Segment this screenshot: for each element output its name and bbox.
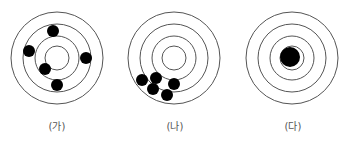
- hit-mark: [80, 52, 92, 64]
- hit-mark: [150, 72, 162, 84]
- target-ring: [162, 46, 186, 70]
- hit-mark: [147, 83, 159, 95]
- hit-mark: [168, 78, 180, 90]
- hit-mark: [136, 74, 148, 86]
- hit-mark: [280, 47, 300, 67]
- hit-mark: [51, 79, 63, 91]
- hit-mark: [161, 89, 173, 101]
- hit-mark: [47, 25, 59, 37]
- target-ring: [128, 12, 220, 104]
- hit-mark: [23, 45, 35, 57]
- target-ga: [11, 12, 103, 104]
- target-na: [128, 12, 220, 104]
- target-da: [246, 12, 338, 104]
- hit-mark: [39, 63, 51, 75]
- target-label-na: (나): [155, 118, 195, 133]
- target-label-ga: (가): [37, 118, 77, 133]
- target-label-da: (다): [273, 118, 313, 133]
